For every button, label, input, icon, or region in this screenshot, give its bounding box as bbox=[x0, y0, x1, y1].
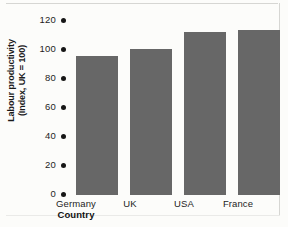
x-axis-title: Country bbox=[40, 209, 112, 220]
y-tick-label-40: 40 bbox=[45, 130, 56, 142]
figure-frame-top-line bbox=[6, 3, 278, 4]
y-tick-label-100: 100 bbox=[40, 43, 56, 55]
y-tick-dot-icon-60 bbox=[61, 105, 66, 110]
y-tick-label-120: 120 bbox=[40, 14, 56, 26]
bar-france[interactable] bbox=[238, 30, 280, 195]
y-tick-label-20: 20 bbox=[45, 159, 56, 171]
y-axis-title-line-1: Labour productivity bbox=[6, 11, 17, 151]
bar-usa[interactable] bbox=[184, 32, 226, 195]
x-axis-label-france: France bbox=[202, 198, 274, 209]
y-axis-tick-20: 20 bbox=[18, 159, 66, 171]
y-tick-dot-icon-40 bbox=[61, 134, 66, 139]
y-tick-dot-icon-100 bbox=[61, 47, 66, 52]
bar-chart-figure: Labour productivity (Index, UK = 100) 12… bbox=[0, 0, 288, 227]
y-tick-label-60: 60 bbox=[45, 101, 56, 113]
y-axis-tick-80: 80 bbox=[18, 72, 66, 84]
y-axis-tick-40: 40 bbox=[18, 130, 66, 142]
y-tick-label-80: 80 bbox=[45, 72, 56, 84]
y-axis-tick-100: 100 bbox=[18, 43, 66, 55]
y-tick-dot-icon-80 bbox=[61, 76, 66, 81]
y-axis-tick-120: 120 bbox=[18, 14, 66, 26]
y-tick-dot-icon-20 bbox=[61, 163, 66, 168]
y-tick-dot-icon-0 bbox=[61, 192, 66, 197]
bar-uk[interactable] bbox=[130, 49, 172, 195]
y-tick-dot-icon-120 bbox=[61, 18, 66, 23]
plot-area bbox=[71, 20, 272, 195]
y-axis-tick-60: 60 bbox=[18, 101, 66, 113]
bar-germany[interactable] bbox=[76, 56, 118, 195]
